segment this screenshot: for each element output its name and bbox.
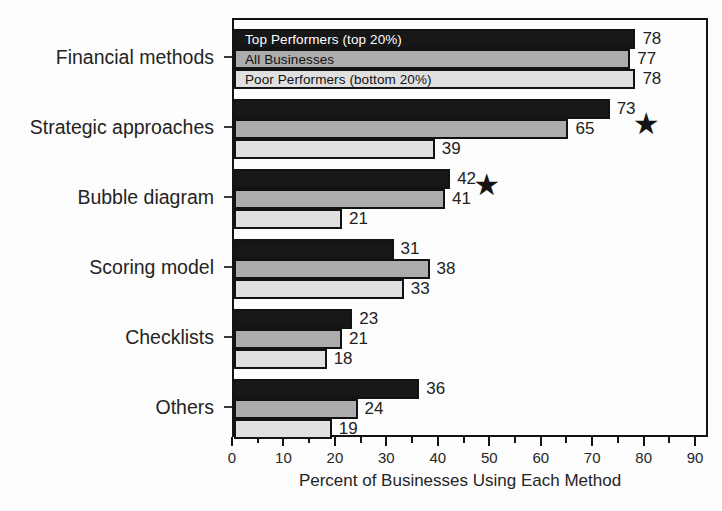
bar-group-5: 232118	[234, 309, 706, 369]
bar-row: 42	[234, 169, 706, 189]
category-tick	[224, 266, 232, 268]
bar-bubble-diagram-series-1	[234, 169, 450, 189]
bar-group-4: 313833	[234, 239, 706, 299]
x-major-tick	[437, 437, 439, 446]
x-tick-label: 60	[519, 449, 563, 466]
bar-row: 39	[234, 139, 706, 159]
bar-bubble-diagram-series-2	[234, 189, 445, 209]
bar-others-series-1	[234, 379, 419, 399]
bar-checklists-series-3	[234, 349, 327, 369]
star-annotation-icon: ★	[633, 109, 660, 139]
value-label: 24	[365, 399, 384, 419]
category-tick	[224, 196, 232, 198]
value-label: 38	[437, 259, 456, 279]
x-major-tick	[488, 437, 490, 446]
bar-others-series-3	[234, 419, 332, 439]
value-label: 36	[426, 379, 445, 399]
bar-row: 19	[234, 419, 706, 439]
value-label: 41	[452, 189, 471, 209]
value-label: 21	[349, 329, 368, 349]
bar-checklists-series-2	[234, 329, 342, 349]
category-tick	[224, 336, 232, 338]
bar-group-3: 424121	[234, 169, 706, 229]
star-annotation-icon: ★	[473, 170, 500, 200]
value-label: 78	[642, 69, 661, 89]
value-label: 31	[401, 239, 420, 259]
x-minor-tick	[565, 437, 567, 443]
x-tick-label: 10	[261, 449, 305, 466]
value-label: 65	[575, 119, 594, 139]
category-label: Financial methods	[0, 45, 214, 69]
category-label: Bubble diagram	[0, 185, 214, 209]
x-minor-tick	[668, 437, 670, 443]
bar-checklists-series-1	[234, 309, 352, 329]
bar-scoring-model-series-1	[234, 239, 394, 259]
bar-strategic-approaches-series-2	[234, 119, 568, 139]
plot-area: Top Performers (top 20%)78All Businesses…	[232, 18, 708, 437]
x-minor-tick	[411, 437, 413, 443]
x-axis-title: Percent of Businesses Using Each Method	[222, 471, 698, 491]
x-minor-tick	[360, 437, 362, 443]
bar-strategic-approaches-series-3	[234, 139, 435, 159]
x-major-tick	[385, 437, 387, 446]
x-minor-tick	[463, 437, 465, 443]
bar-financial-methods-series-2: All Businesses	[234, 49, 630, 69]
x-major-tick	[334, 437, 336, 446]
x-minor-tick	[257, 437, 259, 443]
bar-row: All Businesses77	[234, 49, 706, 69]
x-tick-label: 70	[570, 449, 614, 466]
bar-row: Poor Performers (bottom 20%)78	[234, 69, 706, 89]
bar-row: Top Performers (top 20%)78	[234, 29, 706, 49]
x-minor-tick	[617, 437, 619, 443]
bar-row: 33	[234, 279, 706, 299]
value-label: 77	[637, 49, 656, 69]
value-label: 18	[334, 349, 353, 369]
x-tick-label: 50	[467, 449, 511, 466]
x-tick-label: 20	[313, 449, 357, 466]
value-label: 39	[442, 139, 461, 159]
x-tick-label: 40	[416, 449, 460, 466]
x-major-tick	[231, 437, 233, 446]
legend-label-series-1: Top Performers (top 20%)	[245, 32, 402, 47]
category-tick	[224, 126, 232, 128]
x-tick-label: 90	[673, 449, 717, 466]
value-label: 19	[339, 419, 358, 439]
category-label: Scoring model	[0, 255, 214, 279]
x-tick-label: 80	[622, 449, 666, 466]
value-label: 78	[642, 29, 661, 49]
x-tick-label: 30	[364, 449, 408, 466]
value-label: 33	[411, 279, 430, 299]
bar-financial-methods-series-1: Top Performers (top 20%)	[234, 29, 635, 49]
bar-row: 21	[234, 329, 706, 349]
bar-row: 18	[234, 349, 706, 369]
bar-row: 41	[234, 189, 706, 209]
bar-row: 21	[234, 209, 706, 229]
x-minor-tick	[514, 437, 516, 443]
x-major-tick	[282, 437, 284, 446]
bar-row: 36	[234, 379, 706, 399]
bar-row: 31	[234, 239, 706, 259]
bar-financial-methods-series-3: Poor Performers (bottom 20%)	[234, 69, 635, 89]
bar-others-series-2	[234, 399, 358, 419]
bar-group-1: Top Performers (top 20%)78All Businesses…	[234, 29, 706, 89]
category-tick	[224, 406, 232, 408]
category-label: Checklists	[0, 325, 214, 349]
legend-label-series-3: Poor Performers (bottom 20%)	[245, 72, 432, 87]
legend-label-series-2: All Businesses	[245, 52, 334, 67]
x-major-tick	[591, 437, 593, 446]
bar-strategic-approaches-series-1	[234, 99, 610, 119]
bar-scoring-model-series-2	[234, 259, 430, 279]
category-label: Others	[0, 395, 214, 419]
x-major-tick	[694, 437, 696, 446]
category-label: Strategic approaches	[0, 115, 214, 139]
bar-row: 23	[234, 309, 706, 329]
x-major-tick	[540, 437, 542, 446]
x-tick-label: 0	[210, 449, 254, 466]
bar-bubble-diagram-series-3	[234, 209, 342, 229]
x-major-tick	[643, 437, 645, 446]
value-label: 21	[349, 209, 368, 229]
bar-scoring-model-series-3	[234, 279, 404, 299]
bar-group-6: 362419	[234, 379, 706, 439]
value-label: 23	[359, 309, 378, 329]
bar-row: 24	[234, 399, 706, 419]
